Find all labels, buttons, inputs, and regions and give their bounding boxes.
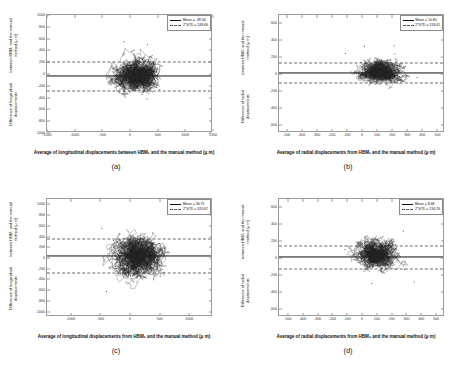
x-tick-label: -1500	[42, 133, 51, 137]
panel-b: Difference of radial displacements betwe…	[232, 0, 464, 184]
x-tick-label: -500	[97, 317, 104, 321]
panel-c-letter: (c)	[0, 346, 232, 355]
y-tick-label: -400	[38, 277, 45, 281]
panel-b-letter: (b)	[232, 162, 464, 171]
x-tick-label: -200	[329, 317, 336, 321]
y-tick-label: -200	[270, 89, 277, 93]
y-tick-label: -600	[270, 307, 277, 311]
y-tick-label: 400	[39, 48, 45, 52]
y-tick-label: 200	[271, 239, 277, 243]
panel-b-legend: Mean = 10.80 2*STD = 118.41	[400, 15, 443, 31]
panel-a-y-axis-label-line2: between HBM₁ and the manual method (μ m)	[8, 14, 18, 77]
y-tick-label: 600	[39, 37, 45, 41]
x-tick-label: 0	[361, 317, 363, 321]
y-tick-label: 200	[39, 245, 45, 249]
y-tick-label: 600	[271, 21, 277, 25]
panel-b-y-axis-label: Difference of radial displacements betwe…	[234, 14, 256, 132]
y-tick-label: 200	[39, 60, 45, 64]
panel-c-y-axis-label-line1: Difference of longitudinal displacements	[8, 261, 18, 316]
x-tick-label: -300	[314, 317, 321, 321]
x-tick-label: -500	[99, 133, 106, 137]
x-tick-label: -500	[284, 317, 291, 321]
panel-d-legend: Mean = 8.68 2*STD = 134.76	[399, 199, 443, 215]
panel-a-letter: (a)	[0, 162, 232, 171]
y-tick-label: 0	[275, 256, 277, 260]
x-tick-mark	[213, 15, 214, 18]
x-tick-label: -100	[343, 133, 350, 137]
panel-c-scatter-cloud	[46, 198, 212, 316]
y-tick-label: -800	[38, 299, 45, 303]
x-tick-label: 300	[403, 317, 409, 321]
panel-d-x-axis-label: Average of radial displacements from HBM…	[250, 334, 462, 339]
x-tick-label: 1000	[181, 133, 189, 137]
x-tick-label: 0	[361, 133, 363, 137]
panel-d: Difference of radial displacements betwe…	[232, 184, 464, 368]
y-tick-label: -1000	[36, 310, 45, 314]
x-tick-label: 500	[155, 133, 161, 137]
y-tick-label: 0	[43, 256, 45, 260]
panel-d-legend-std-row: 2*STD = 134.76	[402, 207, 440, 212]
panel-a-plot-area: 10008006004002000-200-400-600-800-1000-1…	[46, 14, 212, 132]
panel-d-plot-area: 6004002000-200-400-600-500-400-300-200-1…	[278, 198, 444, 316]
y-tick-label: -200	[270, 273, 277, 277]
x-tick-label: -1000	[70, 133, 79, 137]
y-tick-label: -200	[38, 84, 45, 88]
x-tick-label: 0	[129, 133, 131, 137]
mean-line-swatch-icon	[170, 204, 181, 205]
x-tick-label: 500	[434, 133, 440, 137]
std-line-swatch-icon	[402, 209, 413, 210]
y-tick-label: 1000	[37, 13, 45, 17]
x-tick-label: 200	[389, 133, 395, 137]
panel-d-y-axis-label-line1: Difference of radial displacements	[240, 266, 250, 316]
y-tick-label: 1000	[37, 202, 45, 206]
y-tick-label: -800	[38, 119, 45, 123]
x-tick-label: 1000	[185, 317, 193, 321]
x-tick-label: -200	[328, 133, 335, 137]
panel-c: Difference of longitudinal displacements…	[0, 184, 232, 368]
panel-b-x-axis-label: Average of radial displacements from HBM…	[250, 150, 462, 155]
mean-line-swatch-icon	[403, 20, 414, 21]
x-tick-label: 400	[418, 317, 424, 321]
panel-c-legend: Mean = 36.75 2*STD = 320.67	[167, 199, 211, 215]
panel-c-x-axis-label: Average of longitudinal displacements fr…	[18, 334, 230, 339]
x-tick-label: 400	[419, 133, 425, 137]
panel-a-scatter-cloud	[46, 14, 212, 132]
x-tick-label: -300	[313, 133, 320, 137]
bland-altman-figure: Difference of longitudinal displacements…	[0, 0, 465, 368]
panel-c-y-axis-label-line2: between HBM₂ and the manual method (μ m)	[8, 198, 18, 261]
std-line-swatch-icon	[403, 25, 414, 26]
panel-b-scatter-cloud	[278, 14, 444, 132]
panel-d-legend-std-label: 2*STD = 134.76	[415, 207, 440, 212]
mean-line-swatch-icon	[402, 204, 413, 205]
x-tick-label: -400	[299, 317, 306, 321]
panel-a-legend-std-label: 2*STD = 248.66	[183, 23, 208, 28]
y-tick-label: -400	[270, 290, 277, 294]
panel-c-legend-std-label: 2*STD = 320.67	[183, 207, 208, 212]
y-tick-label: -600	[270, 123, 277, 127]
panel-b-y-axis-label-line1: Difference of radial displacements	[240, 81, 250, 132]
y-tick-label: -200	[38, 267, 45, 271]
x-tick-label: -1000	[66, 317, 75, 321]
y-tick-label: 400	[39, 235, 45, 239]
panel-a: Difference of longitudinal displacements…	[0, 0, 232, 184]
x-tick-mark	[213, 129, 214, 132]
x-tick-label: -500	[283, 133, 290, 137]
x-tick-label: 300	[404, 133, 410, 137]
y-tick-label: 0	[43, 72, 45, 76]
y-tick-label: 0	[275, 72, 277, 76]
x-tick-label: 1500	[209, 133, 217, 137]
panel-b-y-axis-label-line2: between HBM₁ and the manual method (μ m)	[240, 14, 250, 81]
panel-d-letter: (d)	[232, 346, 464, 355]
x-tick-label: -100	[344, 317, 351, 321]
panel-d-scatter-cloud	[278, 198, 444, 316]
panel-b-plot-area: 6004002000-200-400-600-500-400-300-200-1…	[278, 14, 444, 132]
x-tick-label: 100	[374, 317, 380, 321]
x-tick-label: 100	[374, 133, 380, 137]
y-tick-label: 400	[271, 222, 277, 226]
mean-line-swatch-icon	[170, 20, 181, 21]
y-tick-label: 600	[271, 205, 277, 209]
panel-b-legend-std-label: 2*STD = 118.41	[415, 23, 440, 28]
x-tick-label: 0	[129, 317, 131, 321]
y-tick-label: 800	[39, 213, 45, 217]
y-tick-label: -400	[270, 106, 277, 110]
